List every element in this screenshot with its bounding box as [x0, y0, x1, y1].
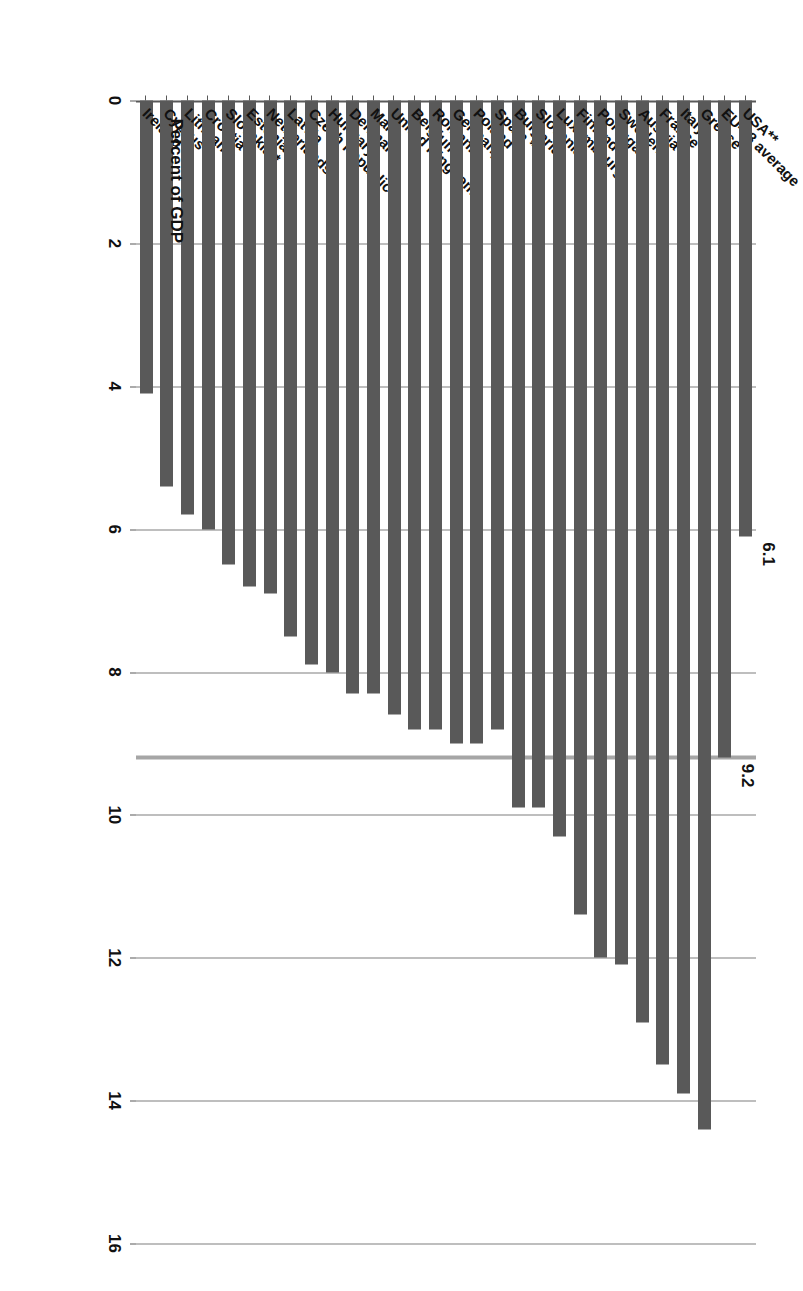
x-axis-tick — [130, 529, 136, 530]
x-axis-tick — [130, 243, 136, 244]
category-tick — [455, 95, 456, 100]
bar[interactable] — [657, 100, 670, 1064]
plot-area: 0246810121416IrelandCyprusLithuaniaCroat… — [136, 100, 756, 1243]
bar[interactable] — [285, 100, 298, 636]
category-tick — [269, 95, 270, 100]
bar[interactable] — [491, 100, 504, 729]
category-tick — [579, 95, 580, 100]
bar-row — [285, 100, 298, 1243]
bar[interactable] — [223, 100, 236, 564]
bar-row — [409, 100, 422, 1243]
category-tick — [311, 95, 312, 100]
bar[interactable] — [615, 100, 628, 964]
bar[interactable] — [471, 100, 484, 743]
bar-row — [388, 100, 401, 1243]
bar[interactable] — [409, 100, 422, 729]
bar[interactable] — [636, 100, 649, 1022]
x-axis-tick-label: 12 — [104, 937, 124, 977]
bar-row — [305, 100, 318, 1243]
category-tick — [724, 95, 725, 100]
category-tick — [290, 95, 291, 100]
category-tick — [683, 95, 684, 100]
bar-row — [223, 100, 236, 1243]
bar-row — [264, 100, 277, 1243]
bar[interactable] — [677, 100, 690, 1093]
bar-row — [471, 100, 484, 1243]
bar[interactable] — [264, 100, 277, 593]
category-tick — [249, 95, 250, 100]
bar[interactable] — [719, 100, 732, 757]
category-tick — [166, 95, 167, 100]
bar[interactable] — [553, 100, 566, 836]
bar[interactable] — [574, 100, 587, 914]
bar[interactable] — [367, 100, 380, 693]
category-tick — [228, 95, 229, 100]
bar[interactable] — [347, 100, 360, 693]
bar-row — [181, 100, 194, 1243]
bar-row — [367, 100, 380, 1243]
category-tick — [187, 95, 188, 100]
bar-row — [512, 100, 525, 1243]
bar[interactable] — [512, 100, 525, 807]
category-tick — [414, 95, 415, 100]
bar-row — [636, 100, 649, 1243]
bar-row — [450, 100, 463, 1243]
bar[interactable] — [595, 100, 608, 957]
category-tick — [373, 95, 374, 100]
bar[interactable] — [698, 100, 711, 1129]
category-tick — [703, 95, 704, 100]
x-axis-tick — [130, 672, 136, 673]
category-tick — [393, 95, 394, 100]
bar-row — [739, 100, 752, 1243]
bar-row — [574, 100, 587, 1243]
category-tick — [538, 95, 539, 100]
bar[interactable] — [202, 100, 215, 529]
category-tick — [641, 95, 642, 100]
x-axis-tick — [130, 1243, 136, 1244]
category-tick — [621, 95, 622, 100]
bar[interactable] — [388, 100, 401, 714]
bar-row — [326, 100, 339, 1243]
bar-row — [595, 100, 608, 1243]
bar-row — [429, 100, 442, 1243]
category-tick — [559, 95, 560, 100]
x-axis-tick-label: 8 — [104, 652, 124, 692]
x-axis-tick — [130, 1100, 136, 1101]
bar-row — [533, 100, 546, 1243]
x-axis-tick-label: 4 — [104, 366, 124, 406]
x-axis-title: Percent of GDP — [166, 118, 186, 243]
bar[interactable] — [429, 100, 442, 729]
bar-row — [161, 100, 174, 1243]
x-axis-tick — [130, 100, 136, 101]
bar[interactable] — [739, 100, 752, 536]
category-tick — [476, 95, 477, 100]
bar-row — [491, 100, 504, 1243]
bar[interactable] — [533, 100, 546, 807]
bar-row — [677, 100, 690, 1243]
category-tick — [331, 95, 332, 100]
bar[interactable] — [243, 100, 256, 586]
bar-row — [698, 100, 711, 1243]
category-tick — [352, 95, 353, 100]
bar-row — [615, 100, 628, 1243]
x-axis-tick-label: 6 — [104, 509, 124, 549]
bar-row — [719, 100, 732, 1243]
bar-row — [553, 100, 566, 1243]
bar[interactable] — [140, 100, 153, 393]
x-axis-tick — [130, 814, 136, 815]
category-tick — [207, 95, 208, 100]
bar-row — [243, 100, 256, 1243]
x-axis-tick — [130, 957, 136, 958]
x-axis-tick-label: 2 — [104, 223, 124, 263]
x-axis-tick-label: 16 — [104, 1223, 124, 1263]
bar[interactable] — [450, 100, 463, 743]
category-tick — [745, 95, 746, 100]
category-tick — [145, 95, 146, 100]
bar[interactable] — [326, 100, 339, 672]
x-axis-tick-label: 10 — [104, 794, 124, 834]
bar-row — [657, 100, 670, 1243]
bar-row — [140, 100, 153, 1243]
bar[interactable] — [305, 100, 318, 664]
category-tick — [435, 95, 436, 100]
